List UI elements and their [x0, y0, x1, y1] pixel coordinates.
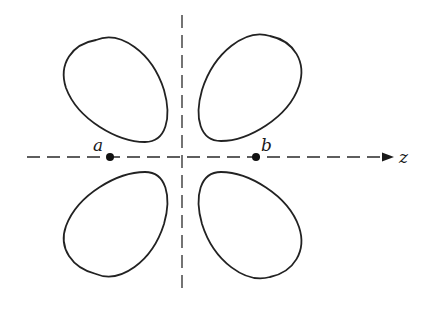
point-b: [252, 153, 260, 161]
lobe-bottom-left: [64, 172, 168, 276]
point-a: [106, 153, 114, 161]
z-axis-arrowhead: [382, 153, 394, 162]
lobe-bottom-right: [199, 172, 302, 278]
orbital-diagram: a b z: [0, 0, 431, 310]
lobe-top-right: [199, 34, 302, 141]
z-axis-label: z: [398, 147, 409, 167]
lobe-top-left: [64, 38, 168, 142]
point-b-label: b: [261, 135, 272, 155]
point-a-label: a: [93, 135, 103, 155]
